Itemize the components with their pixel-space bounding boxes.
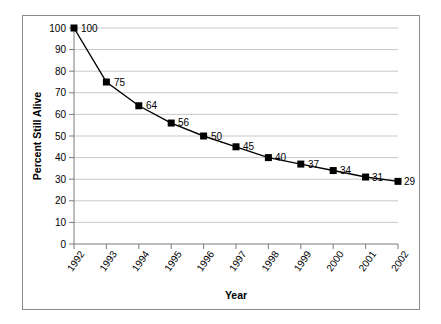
y-tick-label: 70: [55, 87, 67, 98]
data-point-marker: [297, 161, 304, 168]
data-point-marker: [330, 167, 337, 174]
x-tick-label: 1996: [194, 248, 216, 273]
data-point-label: 100: [81, 23, 98, 34]
data-point-marker: [168, 120, 175, 127]
data-point-label: 29: [404, 176, 416, 187]
y-axis-tick-labels: 100 90 80 70 60 50 40 30 20 10 0: [49, 23, 66, 250]
y-tick-label: 100: [49, 23, 66, 34]
x-tick-label: 1995: [162, 248, 184, 273]
data-point-marker: [395, 178, 402, 185]
x-tick-label: 2000: [324, 248, 346, 273]
x-tick-label: 1997: [227, 248, 249, 273]
data-point-label: 37: [308, 159, 320, 170]
data-point-marker: [233, 143, 240, 150]
x-tick-label: 2002: [389, 248, 411, 273]
y-tick-label: 90: [55, 44, 67, 55]
y-tick-label: 0: [60, 239, 66, 250]
data-point-label: 64: [146, 100, 158, 111]
data-point-label: 45: [243, 141, 255, 152]
x-tick-label: 1999: [292, 248, 314, 273]
data-point-label: 34: [340, 165, 352, 176]
x-tick-label: 1998: [259, 248, 281, 273]
data-point-label: 50: [211, 131, 223, 142]
y-axis-ticks: [69, 28, 74, 244]
data-point-marker: [135, 102, 142, 109]
y-tick-label: 50: [55, 131, 67, 142]
x-axis-title: Year: [225, 289, 247, 301]
x-tick-label: 1992: [65, 248, 87, 273]
y-tick-label: 20: [55, 195, 67, 206]
line-chart: 100 90 80 70 60 50 40 30 20 10 0: [23, 16, 419, 309]
data-point-label: 75: [114, 77, 126, 88]
y-tick-label: 80: [55, 66, 67, 77]
data-point-marker: [265, 154, 272, 161]
data-point-marker: [103, 79, 110, 86]
x-axis-ticks: [74, 244, 398, 249]
data-point-marker: [200, 133, 207, 140]
x-axis-category-labels: 1992 1993 1994 1995 1996 1997 1998 1999 …: [65, 248, 411, 273]
x-tick-label: 1994: [130, 248, 152, 273]
data-point-label: 31: [372, 172, 384, 183]
x-tick-label: 2001: [356, 248, 378, 273]
y-axis-title: Percent Still Alive: [31, 92, 43, 180]
data-point-marker: [71, 25, 78, 32]
data-point-label: 56: [178, 117, 190, 128]
data-point-marker: [362, 174, 369, 181]
y-tick-label: 60: [55, 109, 67, 120]
y-tick-label: 40: [55, 152, 67, 163]
y-tick-label: 10: [55, 217, 67, 228]
y-tick-label: 30: [55, 174, 67, 185]
data-point-label: 40: [275, 152, 287, 163]
chart-outer-frame: 100 90 80 70 60 50 40 30 20 10 0: [22, 15, 420, 310]
x-tick-label: 1993: [97, 248, 119, 273]
